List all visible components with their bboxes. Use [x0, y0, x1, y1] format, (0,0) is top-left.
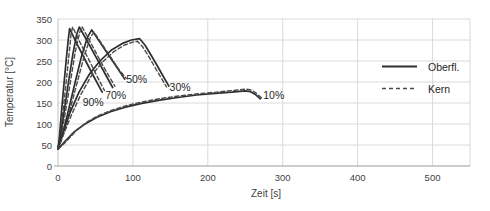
- y-tick-label: 350: [36, 14, 52, 25]
- curve-label-70: 70%: [105, 89, 126, 101]
- x-tick-label: 200: [200, 172, 216, 183]
- legend: Oberfl.Kern: [382, 61, 460, 95]
- y-tick-label: 0: [47, 161, 52, 172]
- data-series-lines: [58, 27, 262, 150]
- y-tick-label: 300: [36, 35, 52, 46]
- y-axis-title: Temperatur [°C]: [4, 57, 15, 127]
- x-tick-label: 300: [275, 172, 291, 183]
- curve-label-90: 90%: [83, 96, 104, 108]
- temperature-time-line-chart: 0100200300400500050100150200250300350 90…: [0, 0, 490, 211]
- legend-label-kern: Kern: [428, 83, 450, 95]
- x-tick-label: 500: [425, 172, 441, 183]
- curve-label-30: 30%: [170, 81, 191, 93]
- x-axis-title: Zeit [s]: [251, 188, 281, 199]
- legend-label-oberfl: Oberfl.: [428, 61, 460, 73]
- y-tick-label: 50: [41, 140, 52, 151]
- chart-canvas: 0100200300400500050100150200250300350 90…: [0, 0, 490, 211]
- curve-label-10: 10%: [263, 89, 284, 101]
- y-tick-label: 100: [36, 119, 52, 130]
- series-line-70-kern: [58, 27, 115, 150]
- y-tick-label: 150: [36, 98, 52, 109]
- curve-label-50: 50%: [126, 73, 147, 85]
- x-tick-label: 0: [55, 172, 60, 183]
- x-tick-label: 100: [125, 172, 141, 183]
- y-tick-label: 200: [36, 77, 52, 88]
- x-tick-label: 400: [350, 172, 366, 183]
- y-tick-label: 250: [36, 56, 52, 67]
